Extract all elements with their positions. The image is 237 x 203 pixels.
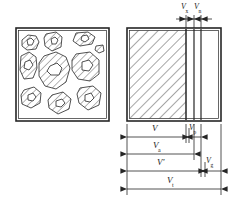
diagram-canvas (0, 0, 237, 203)
volumetric-composition-figure: Vx Vn V Vp Va V' Vg Vt (0, 0, 237, 203)
label-vp: Vp (189, 124, 197, 134)
label-vn: Vn (194, 3, 202, 13)
top-dimension-group (176, 15, 212, 28)
label-vt: Vt (167, 176, 174, 187)
label-vx: Vx (181, 3, 189, 13)
label-v: V (152, 124, 158, 135)
aggregate-volume-band (130, 31, 187, 119)
label-vg: Vg (206, 157, 214, 167)
right-panel-volume-block (127, 28, 221, 121)
label-v-prime: V' (157, 158, 164, 167)
left-panel-aggregate-section (16, 28, 109, 121)
label-va: Va (153, 141, 161, 152)
